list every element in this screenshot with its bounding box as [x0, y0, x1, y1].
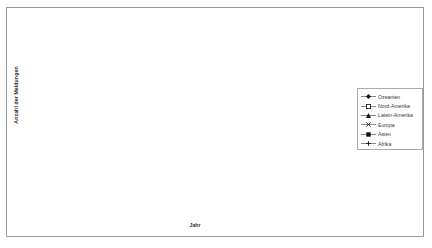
legend-item-ozeanien: Ozeanien: [360, 92, 420, 101]
plus-icon: [360, 139, 377, 148]
legend-label: Nord-Amerika: [378, 103, 410, 109]
legend-item-nord-amerika: Nord-Amerika: [360, 101, 420, 110]
filled-square-icon: [360, 130, 377, 139]
legend-label: Europa: [378, 122, 395, 128]
legend-item-latein-amerika: Latein-Amerika: [360, 111, 420, 120]
y-axis-title: Anzahl der Meldungen: [13, 45, 19, 145]
legend-label: Ozeanien: [378, 94, 400, 100]
filled-diamond-icon: [360, 92, 377, 101]
chart-container: 0300600900120015001800199719981999200020…: [0, 0, 432, 248]
cross-icon: [360, 120, 377, 129]
filled-triangle-icon: [360, 111, 377, 120]
chart-legend: Ozeanien Nord-Amerika Latein-Amerika Eur…: [357, 88, 423, 150]
legend-label: Latein-Amerika: [378, 112, 413, 118]
legend-label: Afrika: [378, 141, 391, 147]
legend-item-asien: Asien: [360, 130, 420, 139]
legend-item-afrika: Afrika: [360, 139, 420, 148]
legend-label: Asien: [378, 131, 391, 137]
x-axis-title: Jahr: [150, 222, 240, 228]
open-square-icon: [360, 102, 377, 111]
legend-item-europa: Europa: [360, 120, 420, 129]
